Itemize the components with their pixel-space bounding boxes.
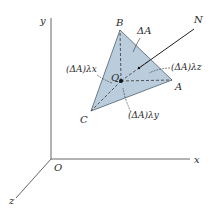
diagram-canvas: y x z O B A C Q N ΔA (ΔA)λx (ΔA)λz (ΔA)λ… bbox=[0, 0, 216, 208]
area-label: ΔA bbox=[136, 25, 151, 36]
normal-arrow-dot bbox=[138, 67, 140, 69]
vertex-A-label: A bbox=[174, 81, 182, 92]
z-axis-label: z bbox=[8, 195, 15, 206]
x-axis-label: x bbox=[194, 154, 200, 165]
projection-z-label: (ΔA)λz bbox=[171, 62, 202, 72]
vertex-C-label: C bbox=[80, 114, 88, 125]
point-Q-dot bbox=[119, 79, 123, 83]
z-axis bbox=[16, 159, 51, 198]
vertex-B-label: B bbox=[115, 17, 123, 28]
normal-N-label: N bbox=[193, 14, 204, 25]
point-Q-label: Q bbox=[111, 72, 119, 83]
projection-y-label: (ΔA)λy bbox=[128, 110, 160, 120]
coordinate-diagram: y x z O B A C Q N ΔA (ΔA)λx (ΔA)λz (ΔA)λ… bbox=[0, 0, 216, 208]
y-axis-label: y bbox=[39, 15, 46, 26]
projection-x-label: (ΔA)λx bbox=[66, 64, 97, 74]
origin-label: O bbox=[54, 162, 62, 173]
